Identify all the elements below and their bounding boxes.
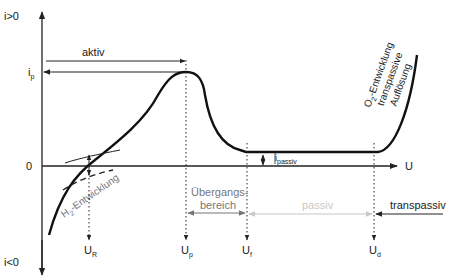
uebergang-label-line1: Übergangs- [191,186,249,198]
h2-evolution-label: H2-Entwicklung [59,172,122,222]
ud-label: Ud [369,244,381,258]
diagram-canvas: i>0 i<0 0 U ip aktiv H2-Entwicklung O2-E… [0,0,462,279]
uf-label: Uf [242,244,252,258]
ipassiv-label: ipassiv [275,153,297,166]
uebergang-label-line2: bereich [200,199,236,211]
aktiv-label: aktiv [82,46,105,58]
transpassiv-label: transpassiv [390,199,446,211]
ip-label: ip [28,66,34,81]
y-axis-top-label: i>0 [4,10,19,22]
passiv-label: passiv [302,199,334,211]
up-label: Up [181,244,193,259]
x-axis-label: U [405,160,413,172]
y-axis-bottom-label: i<0 [4,256,19,268]
origin-label: 0 [26,160,32,172]
o2-evolution-label: O2-Entwicklung transpassive Auflösung [362,41,418,117]
ur-label: UR [84,244,97,258]
